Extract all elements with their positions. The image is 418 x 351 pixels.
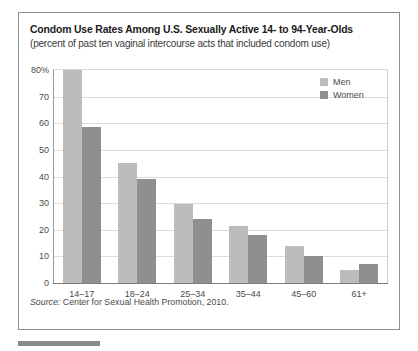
bar-women xyxy=(137,179,156,283)
bar-women xyxy=(248,235,267,283)
x-axis-line xyxy=(53,283,388,284)
figure-container: Condom Use Rates Among U.S. Sexually Act… xyxy=(18,12,400,330)
bar-women xyxy=(82,127,101,283)
chart-legend: MenWomen xyxy=(320,75,364,101)
legend-label: Women xyxy=(333,90,364,100)
page-title: Condom Use Rates Among U.S. Sexually Act… xyxy=(30,23,392,36)
legend-label: Men xyxy=(333,77,351,87)
x-axis-tick-label: 61+ xyxy=(352,289,367,299)
bar-group: 45–60 xyxy=(276,70,332,283)
bar-group: 35–44 xyxy=(221,70,277,283)
y-axis-tick-label: 40 xyxy=(39,172,49,182)
bar-men xyxy=(285,246,304,283)
decorative-rule xyxy=(18,341,100,346)
bar-groups: 14–1718–2425–3435–4445–6061+ xyxy=(54,70,387,283)
legend-swatch-women xyxy=(320,91,328,99)
chart-subtitle: (percent of past ten vaginal intercourse… xyxy=(30,37,392,50)
y-axis-tick-label: 60 xyxy=(39,118,49,128)
x-axis-tick-label: 35–44 xyxy=(236,289,261,299)
bar-men xyxy=(229,226,248,283)
bar-group: 18–24 xyxy=(110,70,166,283)
source-label: Source: xyxy=(30,297,60,307)
legend-item: Men xyxy=(320,75,364,88)
bar-women xyxy=(193,219,212,283)
bar-men xyxy=(118,163,137,283)
bar-women xyxy=(359,264,378,283)
source-note: Source: Center for Sexual Health Promoti… xyxy=(30,297,229,307)
y-axis-tick-label: 30 xyxy=(39,198,49,208)
bar-women xyxy=(304,256,323,283)
legend-swatch-men xyxy=(320,78,328,86)
bar-group: 61+ xyxy=(332,70,388,283)
bar-men xyxy=(340,270,359,283)
y-axis-tick-label: 10 xyxy=(39,251,49,261)
x-axis-tick-label: 45–60 xyxy=(291,289,316,299)
title-block: Condom Use Rates Among U.S. Sexually Act… xyxy=(30,23,392,50)
y-axis-tick-label: 20 xyxy=(39,225,49,235)
bar-men xyxy=(63,70,82,283)
y-axis-tick-label: 80% xyxy=(31,65,49,75)
bar-men xyxy=(174,204,193,283)
legend-item: Women xyxy=(320,88,364,101)
y-axis-tick-label: 70 xyxy=(39,92,49,102)
plot-area: 80%706050403020100 14–1718–2425–3435–444… xyxy=(53,69,388,283)
y-axis-tick-label: 0 xyxy=(44,278,49,288)
bar-group: 14–17 xyxy=(54,70,110,283)
y-axis-tick-label: 50 xyxy=(39,145,49,155)
bar-group: 25–34 xyxy=(165,70,221,283)
source-text: Center for Sexual Health Promotion, 2010… xyxy=(60,297,228,307)
